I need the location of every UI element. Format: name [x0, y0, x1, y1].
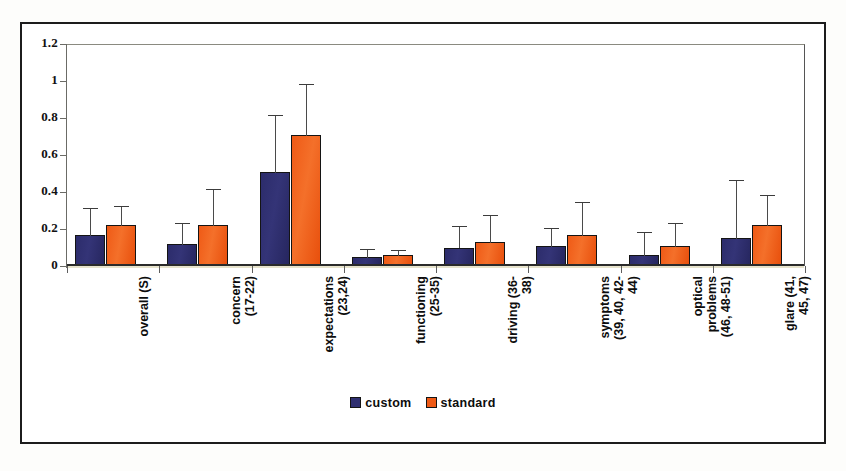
x-axis-tick — [344, 266, 345, 273]
x-axis-tick — [159, 266, 160, 273]
bar-group — [159, 45, 251, 266]
error-bar-cap — [175, 223, 190, 224]
error-bar — [275, 115, 276, 172]
y-axis-tick-label: 0.2 — [16, 220, 58, 236]
bar-standard[interactable] — [291, 135, 321, 266]
error-bar — [582, 202, 583, 235]
y-axis-tick-label: 1 — [16, 72, 58, 88]
bar-group — [252, 45, 344, 266]
category-labels: overall (S)concern (17-22)expectations (… — [67, 276, 805, 394]
bar-custom[interactable] — [75, 235, 105, 266]
bar-group — [344, 45, 436, 266]
error-bar-cap — [391, 250, 406, 251]
bar-standard[interactable] — [475, 242, 505, 266]
x-axis-tick — [436, 266, 437, 273]
error-bar — [490, 215, 491, 243]
error-bar — [736, 180, 737, 239]
bar-standard[interactable] — [106, 225, 136, 266]
error-bar — [182, 223, 183, 245]
error-bar-cap — [114, 206, 129, 207]
bar-standard[interactable] — [752, 225, 782, 266]
error-bar-cap — [575, 202, 590, 203]
error-bar — [213, 189, 214, 226]
category-label: driving (36- 38) — [506, 276, 534, 394]
legend-swatch-standard — [426, 397, 437, 408]
legend-item-standard[interactable]: standard — [426, 396, 496, 410]
x-axis-tick — [805, 266, 806, 273]
error-bar-cap — [452, 226, 467, 227]
category-label: glare (41, 45, 47) — [783, 276, 811, 394]
error-bar-cap — [206, 189, 221, 190]
error-bar — [459, 226, 460, 248]
error-bar-cap — [760, 195, 775, 196]
x-axis-tick — [621, 266, 622, 273]
bar-group — [528, 45, 620, 266]
error-bar-cap — [637, 232, 652, 233]
plot-inner — [67, 45, 804, 266]
error-bar — [767, 195, 768, 226]
bar-custom[interactable] — [167, 244, 197, 266]
legend-swatch-custom — [350, 397, 361, 408]
error-bar — [551, 228, 552, 247]
error-bar-cap — [668, 223, 683, 224]
error-bar-cap — [360, 249, 375, 250]
x-axis-ticks — [67, 266, 805, 274]
plot-area — [67, 44, 805, 266]
category-label: functioning (25-35) — [414, 276, 442, 394]
y-axis-tick — [60, 118, 67, 119]
chart-legend: customstandard — [0, 396, 846, 410]
y-axis-tick — [60, 229, 67, 230]
error-bar — [367, 249, 368, 258]
legend-label: custom — [365, 396, 411, 410]
y-axis-tick — [60, 155, 67, 156]
category-label: expectations (23,24) — [322, 276, 350, 394]
bar-custom[interactable] — [536, 246, 566, 266]
y-axis-tick — [60, 81, 67, 82]
bar-standard[interactable] — [198, 225, 228, 266]
x-axis-tick — [67, 266, 68, 273]
bar-group — [67, 45, 159, 266]
x-axis-tick — [528, 266, 529, 273]
bar-group — [713, 45, 805, 266]
y-axis-tick — [60, 192, 67, 193]
error-bar-cap — [483, 215, 498, 216]
y-axis-tick — [60, 44, 67, 45]
bar-group — [621, 45, 713, 266]
legend-label: standard — [441, 396, 496, 410]
bar-standard[interactable] — [567, 235, 597, 266]
error-bar — [90, 208, 91, 236]
bar-standard[interactable] — [660, 246, 690, 266]
error-bar-cap — [729, 180, 744, 181]
error-bar — [121, 206, 122, 226]
error-bar-cap — [268, 115, 283, 116]
x-axis-tick — [713, 266, 714, 273]
y-axis-tick-label: 0.8 — [16, 109, 58, 125]
error-bar-cap — [544, 228, 559, 229]
error-bar-cap — [83, 208, 98, 209]
error-bar — [644, 232, 645, 256]
figure: 00.20.40.60.811.2 overall (S)concern (17… — [0, 0, 846, 471]
y-axis-tick-label: 0.4 — [16, 183, 58, 199]
y-axis-tick — [60, 266, 67, 267]
category-label: overall (S) — [137, 276, 151, 394]
error-bar-cap — [299, 84, 314, 85]
bar-group — [436, 45, 528, 266]
y-axis-tick-label: 0.6 — [16, 146, 58, 162]
category-label: concern (17-22) — [229, 276, 257, 394]
y-axis-tick-label: 0 — [16, 257, 58, 273]
bar-custom[interactable] — [260, 172, 290, 266]
category-label: optical problems (46, 48-51) — [691, 276, 733, 394]
error-bar — [306, 84, 307, 136]
error-bar — [675, 223, 676, 247]
legend-item-custom[interactable]: custom — [350, 396, 411, 410]
bar-custom[interactable] — [721, 238, 751, 266]
y-axis-tick-label: 1.2 — [16, 35, 58, 51]
x-axis-tick — [252, 266, 253, 273]
category-label: symptoms (39, 40, 42- 44) — [598, 276, 640, 394]
